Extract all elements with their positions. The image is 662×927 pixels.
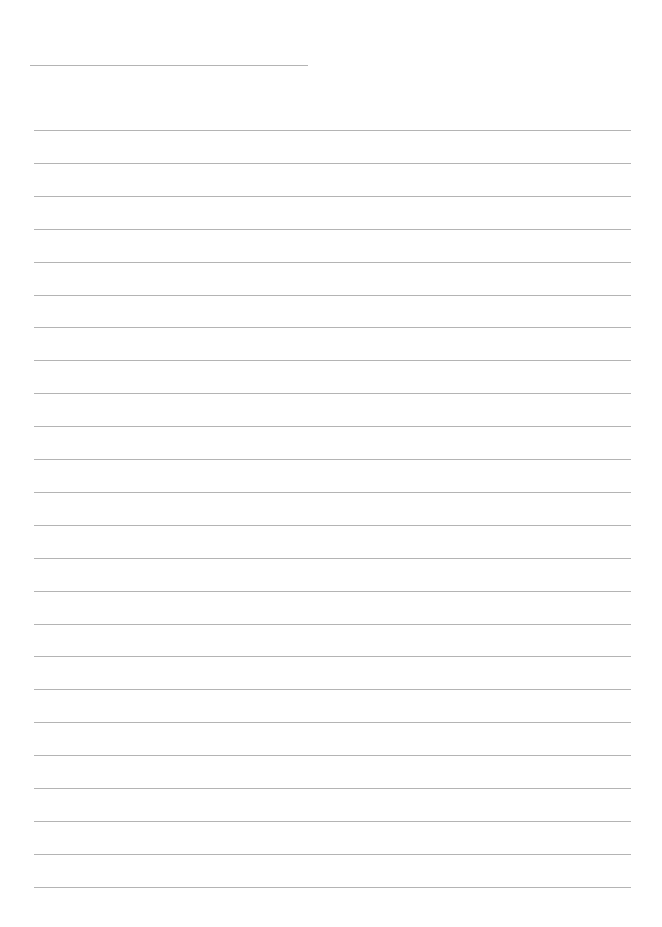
title-line [30, 65, 308, 66]
ruled-line [34, 525, 631, 526]
ruled-line [34, 360, 631, 361]
ruled-line [34, 624, 631, 625]
ruled-line [34, 854, 631, 855]
ruled-line [34, 327, 631, 328]
ruled-line [34, 426, 631, 427]
ruled-line [34, 163, 631, 164]
ruled-line [34, 755, 631, 756]
ruled-line [34, 295, 631, 296]
ruled-line [34, 262, 631, 263]
ruled-line [34, 196, 631, 197]
ruled-line [34, 656, 631, 657]
ruled-line [34, 591, 631, 592]
ruled-line [34, 130, 631, 131]
ruled-line [34, 492, 631, 493]
ruled-line [34, 722, 631, 723]
ruled-line [34, 689, 631, 690]
lined-paper-page [0, 0, 662, 927]
ruled-line [34, 459, 631, 460]
ruled-line [34, 558, 631, 559]
ruled-line [34, 393, 631, 394]
ruled-line [34, 788, 631, 789]
ruled-line [34, 887, 631, 888]
ruled-line [34, 821, 631, 822]
ruled-line [34, 229, 631, 230]
